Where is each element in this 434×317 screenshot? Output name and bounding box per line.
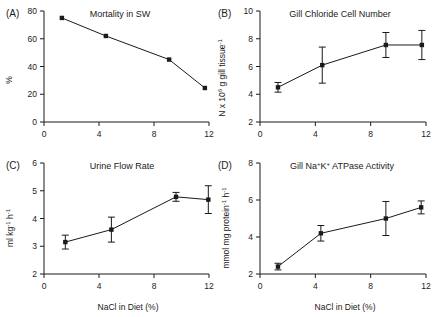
x-tick-label: 8 (368, 129, 373, 139)
panel-b-x-ticks: 04812 (258, 122, 431, 139)
panel-d: (D) Gill Na+K+ ATPase Activity mmol mg p… (212, 152, 434, 317)
panel-d-plot: (D) Gill Na+K+ ATPase Activity mmol mg p… (212, 152, 434, 317)
panel-b-series (274, 30, 425, 92)
panel-d-ylabel: mmol mg protein-1 h-1 (221, 187, 231, 269)
panel-c-ylabel: ml kg-1 h-1 (5, 208, 15, 247)
x-tick-label: 8 (152, 129, 157, 139)
panel-a-ylabel: % (4, 76, 14, 84)
panel-c: (C) Urine Flow Rate ml kg-1 h-1 NaCl in … (0, 152, 217, 317)
panel-c-y-ticks: 23456 (32, 158, 44, 279)
panel-a-x-ticks: 04812 (42, 122, 214, 139)
panel-d-x-ticks: 04812 (258, 274, 431, 291)
series-line (278, 207, 421, 266)
panel-b-letter: (B) (218, 8, 231, 19)
y-tick-label: 4 (248, 89, 253, 99)
data-point-marker (206, 197, 210, 201)
y-tick-label: 20 (28, 89, 38, 99)
panel-a: (A) Mortality in SW % 020406080 04812 (0, 0, 217, 158)
panel-c-title: Urine Flow Rate (90, 161, 155, 171)
x-tick-label: 8 (152, 281, 157, 291)
series-line (65, 197, 208, 242)
panel-a-letter: (A) (6, 8, 19, 19)
x-tick-label: 4 (313, 281, 318, 291)
panel-d-axes: 2468 04812 (248, 158, 431, 291)
panel-d-title: Gill Na+K+ ATPase Activity (290, 161, 394, 171)
x-tick-label: 0 (42, 281, 47, 291)
data-point-marker (420, 43, 424, 47)
panel-d-series (274, 201, 424, 270)
data-point-marker (109, 227, 113, 231)
panel-c-xlabel: NaCl in Diet (%) (98, 302, 159, 312)
panel-c-letter: (C) (6, 160, 20, 171)
y-tick-label: 6 (248, 62, 253, 72)
data-point-marker (174, 195, 178, 199)
y-tick-label: 40 (28, 62, 38, 72)
panel-c-axis-lines (44, 163, 209, 274)
y-tick-label: 2 (32, 269, 37, 279)
panel-d-y-ticks: 2468 (248, 158, 260, 279)
panel-b: (B) Gill Chloride Cell Number N x 106 g … (212, 0, 434, 158)
panel-b-y-ticks: 246810 (244, 6, 260, 127)
data-point-marker (63, 240, 67, 244)
panel-a-title: Mortality in SW (90, 9, 151, 19)
panel-d-xlabel: NaCl in Diet (%) (315, 302, 376, 312)
panel-d-axis-lines (260, 163, 426, 274)
x-tick-label: 4 (97, 281, 102, 291)
y-tick-label: 60 (28, 34, 38, 44)
panel-a-y-ticks: 020406080 (28, 6, 44, 127)
panel-c-x-ticks: 04812 (42, 274, 214, 291)
y-tick-label: 2 (248, 117, 253, 127)
x-tick-label: 0 (42, 129, 47, 139)
data-point-marker (60, 16, 64, 20)
data-point-marker (384, 216, 388, 220)
x-tick-label: 0 (258, 281, 263, 291)
y-tick-label: 5 (32, 186, 37, 196)
data-point-marker (276, 85, 280, 89)
data-point-marker (319, 231, 323, 235)
y-tick-label: 8 (248, 158, 253, 168)
y-tick-label: 10 (244, 6, 254, 16)
panel-b-title: Gill Chloride Cell Number (289, 9, 391, 19)
data-point-marker (104, 34, 108, 38)
panel-b-axis-lines (260, 11, 426, 122)
y-tick-label: 0 (32, 117, 37, 127)
series-line (62, 18, 205, 88)
y-tick-label: 2 (248, 269, 253, 279)
data-point-marker (276, 264, 280, 268)
y-tick-label: 6 (32, 158, 37, 168)
panel-b-plot: (B) Gill Chloride Cell Number N x 106 g … (212, 0, 434, 158)
panel-a-axis-lines (44, 11, 209, 122)
panel-c-axes: 23456 04812 (32, 158, 214, 291)
x-tick-label: 4 (97, 129, 102, 139)
panel-c-series (62, 186, 212, 249)
panel-c-plot: (C) Urine Flow Rate ml kg-1 h-1 NaCl in … (0, 152, 217, 317)
panel-b-axes: 246810 04812 (244, 6, 431, 139)
data-point-marker (419, 205, 423, 209)
panel-d-letter: (D) (218, 160, 232, 171)
x-tick-label: 12 (421, 129, 431, 139)
series-line (278, 45, 422, 87)
data-point-marker (203, 86, 207, 90)
data-point-marker (384, 43, 388, 47)
y-tick-label: 6 (248, 195, 253, 205)
panel-a-plot: (A) Mortality in SW % 020406080 04812 (0, 0, 217, 158)
y-tick-label: 4 (32, 214, 37, 224)
x-tick-label: 12 (421, 281, 431, 291)
x-tick-label: 4 (313, 129, 318, 139)
y-tick-label: 80 (28, 6, 38, 16)
figure-panel-grid: (A) Mortality in SW % 020406080 04812 (B… (0, 0, 434, 317)
x-tick-label: 8 (368, 281, 373, 291)
data-point-marker (167, 57, 171, 61)
y-tick-label: 8 (248, 34, 253, 44)
x-tick-label: 0 (258, 129, 263, 139)
y-tick-label: 3 (32, 241, 37, 251)
y-tick-label: 4 (248, 232, 253, 242)
data-point-marker (320, 63, 324, 67)
panel-a-series (60, 16, 207, 90)
panel-b-ylabel: N x 106 g gill tissue-1 (217, 39, 227, 117)
